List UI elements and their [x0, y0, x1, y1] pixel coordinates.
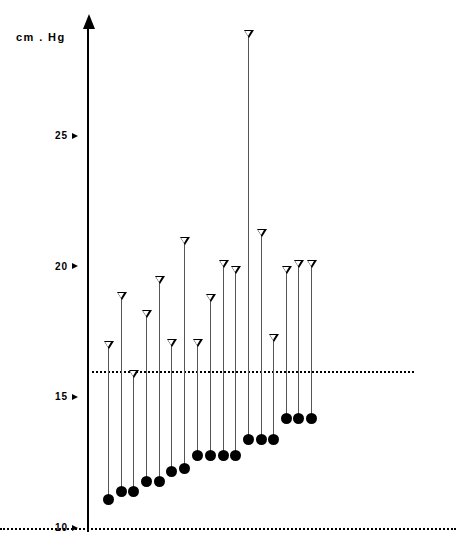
lower-value-marker [166, 466, 177, 477]
lower-value-marker [230, 450, 241, 461]
range-stem [261, 230, 262, 439]
y-tick-mark-25 [72, 133, 78, 139]
upper-value-marker [142, 310, 152, 318]
range-stem [235, 267, 236, 455]
lower-value-marker [256, 434, 267, 445]
lower-reference-line [0, 528, 456, 530]
upper-value-marker [282, 266, 292, 274]
y-tick-mark-15 [72, 394, 78, 400]
range-stem [133, 371, 134, 491]
range-stem [184, 238, 185, 468]
lower-value-marker [154, 476, 165, 487]
lower-value-marker [103, 494, 114, 505]
upper-value-marker [104, 341, 114, 349]
y-tick-label-20: 20 [46, 261, 68, 272]
y-tick-label-15: 15 [46, 391, 68, 402]
range-stem [286, 267, 287, 419]
lower-value-marker [116, 486, 127, 497]
lower-value-marker [268, 434, 279, 445]
upper-value-marker [219, 260, 229, 268]
lower-value-marker [218, 450, 229, 461]
y-tick-mark-20 [72, 263, 78, 269]
lower-value-marker [293, 413, 304, 424]
upper-value-marker [269, 334, 279, 342]
lower-value-marker [179, 463, 190, 474]
range-stem [273, 335, 274, 440]
range-stem [210, 295, 211, 454]
upper-value-marker [294, 260, 304, 268]
lower-value-marker [243, 434, 254, 445]
range-stem [108, 342, 109, 499]
range-stem [171, 340, 172, 471]
y-axis-line [87, 28, 89, 532]
upper-value-marker [180, 237, 190, 245]
upper-value-marker [129, 370, 139, 378]
lower-value-marker [141, 476, 152, 487]
upper-value-marker [206, 294, 216, 302]
chart-canvas: cm . Hg 25201510 [0, 0, 456, 549]
upper-value-marker [117, 292, 127, 300]
y-axis-arrowhead [83, 14, 95, 29]
upper-value-marker [231, 266, 241, 274]
lower-value-marker [281, 413, 292, 424]
upper-value-marker [257, 229, 267, 237]
range-stem [146, 311, 147, 481]
range-stem [159, 277, 160, 481]
lower-value-marker [192, 450, 203, 461]
upper-value-marker [244, 30, 254, 38]
range-stem [223, 261, 224, 454]
range-stem [248, 31, 249, 439]
lower-value-marker [205, 450, 216, 461]
y-tick-label-25: 25 [46, 130, 68, 141]
range-stem [197, 340, 198, 455]
upper-value-marker [307, 260, 317, 268]
range-stem [311, 261, 312, 418]
lower-value-marker [128, 486, 139, 497]
upper-value-marker [167, 339, 177, 347]
y-axis-unit-label: cm . Hg [16, 31, 66, 43]
range-stem [298, 261, 299, 418]
upper-value-marker [193, 339, 203, 347]
lower-value-marker [306, 413, 317, 424]
range-stem [121, 293, 122, 492]
upper-value-marker [155, 276, 165, 284]
